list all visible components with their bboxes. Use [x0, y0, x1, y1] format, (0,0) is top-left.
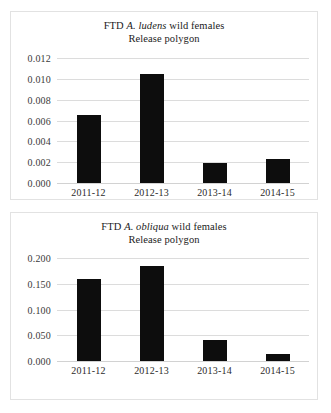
bar-2013-14 [203, 163, 227, 183]
y-axis-tick-label: 0.004 [28, 136, 52, 147]
x-axis-label-2014-15: 2014-15 [246, 365, 309, 376]
y-axis-tick-label: 0.012 [28, 53, 52, 64]
bar-2013-14 [203, 340, 227, 361]
x-axis-labels-ludens: 2011-122012-132013-142014-15 [57, 187, 309, 203]
x-axis-label-2011-12: 2011-12 [57, 365, 120, 376]
bar-slot [183, 58, 246, 183]
y-axis-tick-label: 0.002 [28, 157, 52, 168]
bar-slot [57, 58, 120, 183]
x-axis-label-2013-14: 2013-14 [183, 365, 246, 376]
chart-panel-obliqua: FTD A. obliqua wild females Release poly… [10, 212, 318, 400]
bar-slot [120, 258, 183, 361]
x-axis-label-2011-12: 2011-12 [57, 187, 120, 198]
y-axis-tick-label: 0.010 [28, 73, 52, 84]
bar-slot [183, 258, 246, 361]
bar-slot [246, 258, 309, 361]
y-axis-tick-label: 0.150 [28, 278, 52, 289]
bar-slot [57, 258, 120, 361]
plot-area-obliqua: 0.2000.1500.1000.0500.000 [57, 258, 309, 361]
chart-title-line2: Release polygon [128, 33, 199, 44]
plot-area-ludens: 0.0120.0100.0080.0060.0040.0020.000 [57, 58, 309, 183]
chart-title-line1: FTD A. ludens wild females [104, 20, 225, 31]
chart-panel-ludens: FTD A. ludens wild females Release polyg… [10, 11, 318, 200]
y-axis-tick-label: 0.000 [28, 356, 52, 367]
bars-ludens [57, 58, 309, 183]
bar-2012-13 [140, 266, 164, 361]
y-axis-tick-label: 0.006 [28, 115, 52, 126]
y-axis-tick-label: 0.100 [28, 304, 52, 315]
y-axis-tick-label: 0.000 [28, 178, 52, 189]
bar-2014-15 [266, 354, 290, 361]
chart-title-obliqua: FTD A. obliqua wild females Release poly… [11, 220, 317, 246]
x-axis-label-2014-15: 2014-15 [246, 187, 309, 198]
y-axis-tick-label: 0.200 [28, 253, 52, 264]
gridline [57, 183, 309, 184]
chart-title-ludens: FTD A. ludens wild females Release polyg… [11, 19, 317, 45]
bar-slot [120, 58, 183, 183]
species-name-italic: A. obliqua [124, 221, 169, 232]
chart-title-line2: Release polygon [128, 234, 199, 245]
y-axis-tick-label: 0.008 [28, 94, 52, 105]
gridline [57, 361, 309, 362]
bars-obliqua [57, 258, 309, 361]
x-axis-labels-obliqua: 2011-122012-132013-142014-15 [57, 365, 309, 381]
x-axis-label-2012-13: 2012-13 [120, 187, 183, 198]
bar-2011-12 [77, 115, 101, 183]
bar-2011-12 [77, 279, 101, 361]
chart-title-line1: FTD A. obliqua wild females [101, 221, 227, 232]
x-axis-label-2013-14: 2013-14 [183, 187, 246, 198]
species-name-italic: A. ludens [127, 20, 167, 31]
bar-2012-13 [140, 74, 164, 183]
y-axis-tick-label: 0.050 [28, 330, 52, 341]
bar-slot [246, 58, 309, 183]
x-axis-label-2012-13: 2012-13 [120, 365, 183, 376]
bar-2014-15 [266, 159, 290, 183]
